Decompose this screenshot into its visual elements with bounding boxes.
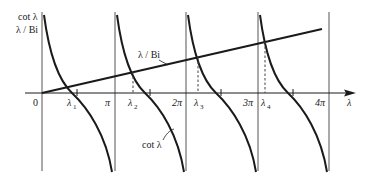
tick-3pi: 3π: [242, 97, 254, 108]
svg-text:λ: λ: [66, 97, 72, 108]
root-label-4: λ 4: [260, 97, 271, 111]
root-label-1: λ 1: [66, 97, 77, 111]
y-label-lambda-bi: λ / Bi: [16, 24, 38, 35]
root-label-3: λ 3: [193, 97, 204, 111]
svg-text:2: 2: [134, 103, 138, 111]
curve-label: cot λ: [142, 139, 162, 150]
y-label-cot: cot λ: [18, 11, 38, 22]
eigenvalue-diagram: cot λ λ / Bi 0 π 2π 3π 4π λ λ 1 λ 2 λ 3 …: [0, 0, 369, 177]
tick-2pi: 2π: [172, 97, 183, 108]
root-label-2: λ 2: [127, 97, 138, 111]
svg-text:λ: λ: [127, 97, 133, 108]
svg-text:4: 4: [267, 103, 271, 111]
svg-text:λ: λ: [260, 97, 266, 108]
svg-text:λ: λ: [193, 97, 199, 108]
svg-text:1: 1: [73, 103, 77, 111]
origin-label: 0: [33, 97, 38, 108]
tick-pi: π: [105, 97, 111, 108]
tick-4pi: 4π: [315, 97, 326, 108]
line-label: λ / Bi: [138, 49, 160, 60]
svg-text:3: 3: [200, 103, 204, 111]
x-axis-label: λ: [346, 97, 352, 108]
